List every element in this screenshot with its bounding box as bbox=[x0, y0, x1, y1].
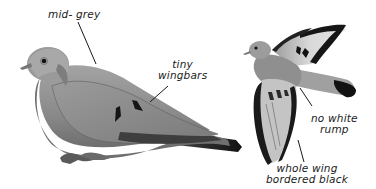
leader-whole-wing bbox=[298, 140, 304, 162]
perched-dove bbox=[20, 47, 242, 164]
label-no-white-rump: no white rump bbox=[311, 113, 358, 135]
label-mid-grey: mid- grey bbox=[48, 9, 100, 20]
leader-no-white-rump bbox=[300, 88, 312, 106]
illustration: mid- grey tiny wingbars no white rump wh… bbox=[0, 0, 376, 189]
leader-mid-grey bbox=[78, 22, 96, 64]
label-tiny-wingbars: tiny wingbars bbox=[158, 59, 207, 81]
bird-drawings bbox=[0, 0, 376, 189]
label-whole-wing-bordered-black: whole wing bordered black bbox=[266, 163, 348, 185]
